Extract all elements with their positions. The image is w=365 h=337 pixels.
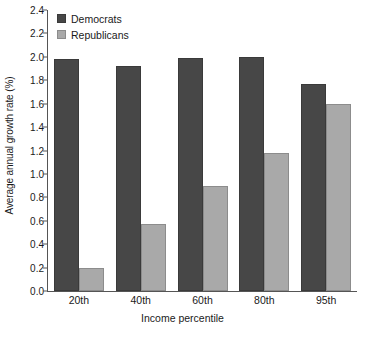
bar-republicans-60th — [203, 186, 228, 291]
plot-area — [48, 10, 357, 291]
x-axis-tick-labels: 20th40th60th80th95th — [48, 294, 357, 310]
bar-group — [54, 10, 104, 291]
bar-republicans-95th — [326, 104, 351, 291]
x-axis-title: Income percentile — [0, 312, 365, 324]
y-axis-tick-mark — [43, 33, 47, 34]
bar-republicans-80th — [264, 153, 289, 291]
y-axis-tick-mark — [43, 103, 47, 104]
legend-item-democrats: Democrats — [57, 12, 129, 25]
bar-group — [116, 10, 166, 291]
legend-swatch-republicans-icon — [57, 30, 66, 39]
y-axis-tick-label: 1.2 — [30, 145, 44, 156]
y-axis-tick-label: 2.2 — [30, 28, 44, 39]
y-axis-tick-mark — [43, 291, 47, 292]
y-axis-tick-mark — [43, 56, 47, 57]
y-axis-tick-mark — [43, 127, 47, 128]
bar-democrats-60th — [178, 58, 203, 291]
y-axis-tick-label: 0.8 — [30, 192, 44, 203]
chart-legend: Democrats Republicans — [57, 12, 129, 44]
y-axis-tick-label: 2.4 — [30, 5, 44, 16]
y-axis-tick-mark — [43, 80, 47, 81]
y-axis-tick-label: 1.0 — [30, 168, 44, 179]
y-axis-tick-label: 0.0 — [30, 286, 44, 297]
bar-republicans-40th — [141, 224, 166, 291]
y-axis-tick-mark — [43, 267, 47, 268]
y-axis-tick-mark — [43, 173, 47, 174]
y-axis-tick-mark — [43, 150, 47, 151]
y-axis-tick-mark — [43, 10, 47, 11]
y-axis-tick-label: 2.0 — [30, 51, 44, 62]
legend-item-republicans: Republicans — [57, 28, 129, 41]
bar-group — [178, 10, 228, 291]
x-axis-tick-label: 60th — [192, 294, 212, 306]
y-axis-tick-label: 1.4 — [30, 122, 44, 133]
y-axis-title-text: Average annual growth rate (%) — [4, 76, 15, 214]
bar-group — [239, 10, 289, 291]
y-axis-tick-mark — [43, 244, 47, 245]
y-axis-tick-label: 0.6 — [30, 215, 44, 226]
x-axis-tick-label: 40th — [130, 294, 150, 306]
y-axis-tick-mark — [43, 197, 47, 198]
y-axis-tick-label: 1.8 — [30, 75, 44, 86]
y-axis-tick-labels: 0.00.20.40.60.81.01.21.41.61.82.02.22.4 — [16, 10, 44, 291]
bar-republicans-20th — [79, 268, 104, 291]
bar-democrats-80th — [239, 57, 264, 291]
bar-democrats-95th — [301, 84, 326, 291]
bar-democrats-40th — [116, 66, 141, 291]
legend-label-republicans: Republicans — [71, 29, 129, 41]
legend-label-democrats: Democrats — [71, 13, 122, 25]
y-axis-tick-label: 0.4 — [30, 239, 44, 250]
x-axis-tick-label: 95th — [316, 294, 336, 306]
bar-chart-figure: Average annual growth rate (%) 0.00.20.4… — [0, 0, 365, 337]
x-axis-tick-label: 20th — [69, 294, 89, 306]
bar-democrats-20th — [54, 59, 79, 291]
x-axis-tick-label: 80th — [254, 294, 274, 306]
y-axis-tick-label: 1.6 — [30, 98, 44, 109]
legend-swatch-democrats-icon — [57, 14, 66, 23]
y-axis-tick-mark — [43, 220, 47, 221]
x-axis-line — [47, 291, 357, 292]
y-axis-tick-label: 0.2 — [30, 262, 44, 273]
bar-group — [301, 10, 351, 291]
